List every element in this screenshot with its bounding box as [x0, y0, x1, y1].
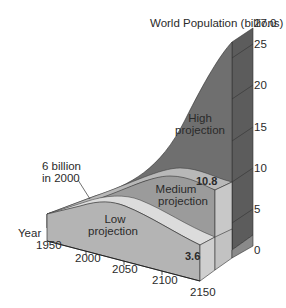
y-tick-10: 10 — [254, 162, 267, 174]
annotation-leader — [78, 180, 90, 199]
low-label-line-2: projection — [88, 225, 138, 237]
medium-label-line-1: Medium — [156, 183, 197, 195]
y-tick-27: 27.0 — [254, 17, 276, 29]
x-tick-2000: 2000 — [75, 252, 101, 264]
year-label: Year — [18, 227, 41, 239]
y-tick-5: 5 — [254, 203, 260, 215]
annotation-line-1: 6 billion — [42, 160, 81, 172]
x-tick-2150: 2150 — [190, 286, 216, 298]
x-tick-2100: 2100 — [152, 274, 178, 286]
x-tick-2050: 2050 — [112, 263, 138, 275]
y-tick-15: 15 — [254, 121, 267, 133]
annotation-6-billion: 6 billion in 2000 — [42, 160, 81, 184]
y-tick-0: 0 — [254, 244, 260, 256]
high-label-line-2: projection — [175, 124, 225, 136]
high-label-line-1: High — [188, 112, 212, 124]
y-tick-25: 25 — [254, 38, 267, 50]
x-tick-1950: 1950 — [36, 239, 62, 251]
low-label-line-1: Low — [104, 213, 126, 225]
y-tick-20: 20 — [254, 79, 267, 91]
low-end-value: 3.6 — [185, 250, 200, 262]
annotation-line-2: in 2000 — [42, 172, 80, 184]
medium-label-line-2: projection — [158, 195, 208, 207]
medium-end-value: 10.8 — [196, 175, 217, 187]
population-chart: World Population (billions) 27.0 25 20 1… — [0, 0, 286, 308]
y-axis-labels: 27.0 25 20 15 10 5 0 — [254, 17, 276, 256]
